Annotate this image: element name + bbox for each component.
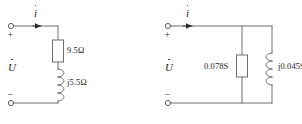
conductance-value-label: 0.078S xyxy=(204,62,228,71)
susceptance-value-label: j0.045S xyxy=(278,62,302,71)
negative-terminal-node xyxy=(165,100,170,105)
positive-terminal-node xyxy=(165,23,170,28)
current-arrow-icon xyxy=(183,23,192,29)
parallel-admittance-circuit: + − i U 0.078S j0.045S xyxy=(0,0,302,124)
positive-sign: + xyxy=(165,30,171,40)
voltage-label: U xyxy=(165,62,173,73)
negative-sign: − xyxy=(165,90,171,100)
circuit-diagram-figure: + − i U 9.5Ω j5.5Ω xyxy=(0,0,302,124)
current-label: i xyxy=(186,8,189,19)
parallel-circuit-svg xyxy=(0,0,302,124)
conductance-symbol xyxy=(237,55,248,77)
susceptance-inductor-symbol xyxy=(266,53,272,85)
